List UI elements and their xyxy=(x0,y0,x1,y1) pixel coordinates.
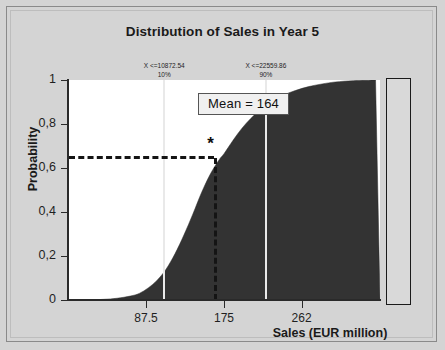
y-tick-label-1: 0,2 xyxy=(8,248,56,262)
y-tick-0 xyxy=(61,300,68,301)
mean-star-marker: * xyxy=(207,135,214,152)
mean-horizontal-dashed-line xyxy=(69,156,214,159)
x-tick-label-2: 262 xyxy=(267,311,337,325)
chart-window: Distribution of Sales in Year 5 Probabil… xyxy=(0,0,445,350)
mean-vertical-dashed-line xyxy=(214,158,217,300)
y-tick-label-0: 0 xyxy=(8,292,56,306)
x-axis-title: Sales (EUR million) xyxy=(240,326,420,340)
y-tick-4 xyxy=(61,124,68,125)
percentile-90-percent: 90% xyxy=(191,71,341,80)
percentile-90-value: X <=22559.86 xyxy=(191,62,341,71)
y-tick-label-2: 0,4 xyxy=(8,204,56,218)
x-tick-1 xyxy=(224,301,225,308)
x-tick-label-1: 175 xyxy=(189,311,259,325)
y-tick-1 xyxy=(61,256,68,257)
right-scroll-bar[interactable] xyxy=(386,78,411,305)
x-tick-0 xyxy=(146,301,147,308)
page-title: Distribution of Sales in Year 5 xyxy=(0,24,445,39)
percentile-10-line xyxy=(163,80,165,300)
y-tick-2 xyxy=(61,212,68,213)
x-tick-label-0: 87.5 xyxy=(111,311,181,325)
y-axis-line xyxy=(67,79,69,301)
mean-callout-box: Mean = 164 xyxy=(198,93,289,115)
y-tick-label-5: 1 xyxy=(8,72,56,86)
y-tick-5 xyxy=(61,80,68,81)
percentile-90-label: X <=22559.86 90% xyxy=(191,62,341,80)
y-tick-label-4: 0,8 xyxy=(8,116,56,130)
y-tick-label-3: 0,6 xyxy=(8,160,56,174)
y-tick-3 xyxy=(61,168,68,169)
x-tick-2 xyxy=(302,301,303,308)
